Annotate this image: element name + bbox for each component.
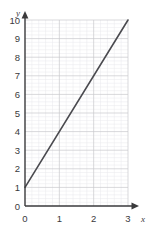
y-tick-label: 8 (15, 52, 20, 63)
y-tick-label: 2 (15, 163, 20, 174)
x-axis-label: x (140, 214, 145, 224)
line-graph-figure: 10 9 8 7 6 5 4 3 2 1 0 0 1 2 3 y x (0, 0, 151, 228)
y-tick-label: 4 (15, 126, 20, 137)
y-tick-label: 9 (15, 33, 20, 44)
y-tick-label: 7 (15, 70, 20, 81)
y-tick-labels: 10 9 8 7 6 5 4 3 2 1 0 (9, 15, 20, 212)
x-tick-labels: 0 1 2 3 (22, 213, 130, 224)
chart-canvas: 10 9 8 7 6 5 4 3 2 1 0 0 1 2 3 y x (0, 0, 151, 228)
x-tick-label: 2 (91, 213, 96, 224)
x-axis-arrowhead (132, 203, 140, 210)
x-tick-label: 0 (22, 213, 27, 224)
y-tick-label: 5 (15, 108, 20, 119)
x-tick-label: 1 (57, 213, 62, 224)
y-axis-label: y (15, 8, 20, 18)
y-tick-label: 6 (15, 89, 20, 100)
y-tick-label: 1 (15, 182, 20, 193)
y-tick-label: 3 (15, 145, 20, 156)
x-tick-label: 3 (125, 213, 130, 224)
y-tick-label: 0 (15, 201, 20, 212)
y-axis-arrowhead (22, 11, 29, 19)
